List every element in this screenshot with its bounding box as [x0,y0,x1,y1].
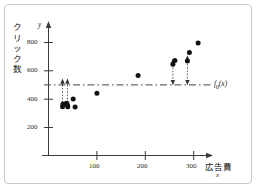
y-tick-label-800: 800 [27,38,38,46]
y-tick-label-400: 400 [27,95,38,103]
baseline-function-label: f0(x) [214,79,227,90]
y-axis-label-char: ッ [12,43,23,54]
y-variable-label: y [38,20,41,29]
data-point [136,73,141,78]
residual-arrow-head [65,79,69,84]
axes-group [42,21,213,160]
x-axis-arrow [206,153,213,158]
x-tick-label-300: 300 [186,162,197,170]
data-point [172,58,177,63]
data-point [94,91,99,96]
data-points-group [60,41,201,110]
x-tick-label-200: 200 [137,162,148,170]
y-axis-label: ク リ ッ ク 数 [12,22,23,75]
y-axis-label-char: 数 [12,64,23,75]
y-axis-label-char: リ [12,33,23,44]
x-variable-label: x [216,171,219,179]
data-point [73,105,78,110]
data-point [196,41,201,46]
y-axis-arrow [46,21,51,28]
data-point [71,97,76,102]
residual-arrow-head [60,79,64,84]
data-point [187,50,192,55]
y-tick-label-600: 600 [27,66,38,74]
data-point [65,104,70,109]
y-tick-label-200: 200 [27,123,38,131]
residual-arrows-group [60,55,189,108]
y-axis-label-char: ク [12,54,23,65]
x-tick-label-100: 100 [89,162,100,170]
y-axis-label-char: ク [12,22,23,33]
data-point [185,59,190,64]
